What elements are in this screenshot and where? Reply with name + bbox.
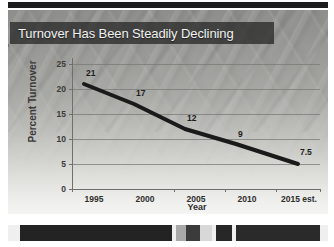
data-label-2000: 17 [136, 88, 145, 98]
data-label-1995: 21 [86, 68, 95, 78]
filmstrip-segment[interactable] [236, 225, 320, 241]
filmstrip-segment[interactable] [186, 225, 200, 241]
slide-title: Turnover Has Been Steadily Declining [10, 26, 234, 41]
bottom-filmstrip [8, 225, 328, 241]
filmstrip-segment[interactable] [20, 225, 172, 241]
presentation-slide: Turnover Has Been Steadily Declining Per… [8, 10, 328, 214]
filmstrip-segment[interactable] [176, 225, 186, 241]
filmstrip-segment[interactable] [200, 225, 212, 241]
series-turnover [8, 44, 328, 214]
slide-screenshot: Turnover Has Been Steadily Declining Per… [0, 0, 334, 247]
data-label-2015: 7.5 [300, 147, 312, 157]
top-application-band [8, 2, 328, 8]
data-label-2005: 12 [187, 113, 196, 123]
data-label-2010: 9 [238, 129, 243, 139]
line-chart: Percent Turnover 25 20 15 10 5 0 [8, 44, 328, 214]
series-turnover-line [84, 84, 298, 164]
filmstrip-segment[interactable] [216, 225, 232, 241]
slide-title-plate: Turnover Has Been Steadily Declining [10, 22, 274, 44]
